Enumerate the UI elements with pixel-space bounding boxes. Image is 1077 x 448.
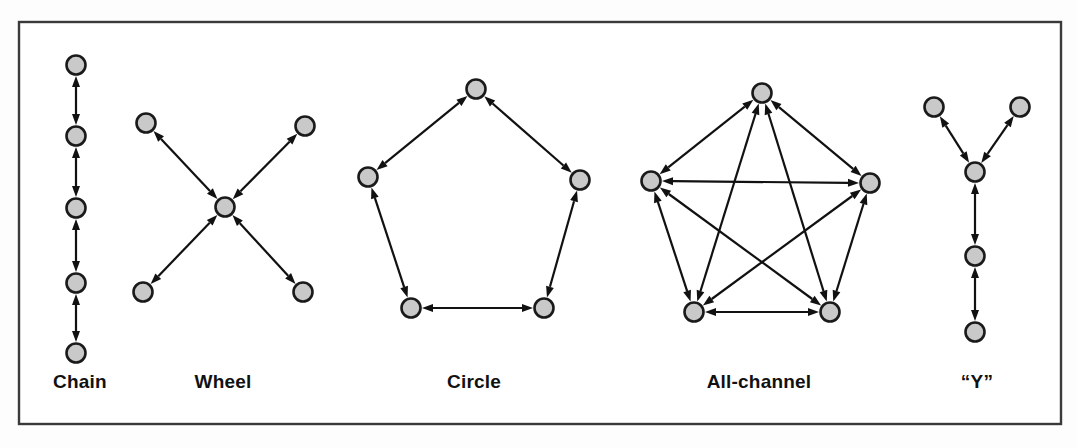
node-r_left <box>359 168 378 187</box>
node-w_tl <box>137 114 156 133</box>
node-w_center <box>216 198 235 217</box>
node-r_right <box>571 171 590 190</box>
node-c2 <box>67 127 86 146</box>
node-c3 <box>67 199 86 218</box>
network-label-circle: Circle <box>447 371 501 392</box>
node-r_bl <box>402 299 421 318</box>
network-label-y: “Y” <box>961 371 993 392</box>
figure-border <box>19 22 1061 424</box>
node-a_br <box>821 303 840 322</box>
node-w_tr <box>296 117 315 136</box>
node-y_tr <box>1011 98 1030 117</box>
node-r_br <box>535 299 554 318</box>
network-label-all-channel: All-channel <box>707 371 812 392</box>
figure-canvas: ChainWheelCircleAll-channel“Y” <box>0 0 1077 448</box>
node-a_top <box>753 84 772 103</box>
node-a_left <box>642 172 661 191</box>
node-r_top <box>467 80 486 99</box>
node-c4 <box>67 274 86 293</box>
network-label-chain: Chain <box>53 371 107 392</box>
node-y_tl <box>925 98 944 117</box>
node-y_mid <box>966 247 985 266</box>
node-a_bl <box>685 303 704 322</box>
node-a_right <box>861 174 880 193</box>
node-w_br <box>294 283 313 302</box>
node-y_junction <box>966 163 985 182</box>
node-y_bottom <box>966 323 985 342</box>
network-figure: ChainWheelCircleAll-channel“Y” <box>0 0 1077 448</box>
node-c1 <box>67 56 86 75</box>
figure-frame-group <box>19 22 1061 424</box>
node-w_bl <box>134 283 153 302</box>
node-c5 <box>67 344 86 363</box>
network-label-wheel: Wheel <box>195 371 252 392</box>
